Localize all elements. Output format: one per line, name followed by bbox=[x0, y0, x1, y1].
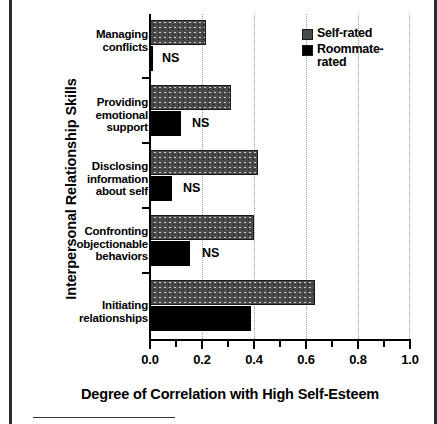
legend-label-line: rated bbox=[317, 55, 346, 69]
bar-roommate-rated-initiating-relationships bbox=[150, 306, 251, 331]
x-tick-0.6 bbox=[305, 340, 307, 349]
x-tick-0.3 bbox=[227, 340, 229, 347]
category-label-line: information bbox=[40, 173, 148, 186]
x-tick-0.0 bbox=[149, 340, 151, 349]
ns-annotation-providing-emotional-support: NS bbox=[192, 111, 209, 136]
category-label-line: Confronting bbox=[40, 225, 148, 238]
category-label-providing-emotional-support: Providing emotional support bbox=[40, 96, 148, 134]
category-label-line: Initiating bbox=[40, 299, 148, 312]
category-label-line: behaviors bbox=[40, 250, 148, 263]
x-tick-label-0.8: 0.8 bbox=[338, 352, 378, 367]
x-tick-0.4 bbox=[253, 340, 255, 349]
legend-label-self-rated: Self-rated bbox=[317, 27, 372, 41]
category-label-line: objectionable bbox=[40, 238, 148, 251]
x-tick-label-0.0: 0.0 bbox=[130, 352, 170, 367]
category-label-line: conflicts bbox=[40, 41, 148, 54]
x-axis-title: Degree of Correlation with High Self-Est… bbox=[30, 386, 430, 402]
legend-label-line: Roommate- bbox=[317, 42, 384, 56]
ns-annotation-confronting-objectionable-behaviors: NS bbox=[202, 241, 219, 266]
legend-swatch-roommate-rated-icon bbox=[302, 45, 313, 56]
x-tick-0.9 bbox=[383, 340, 385, 347]
legend-label-roommate-rated: Roommate- rated bbox=[317, 43, 384, 70]
ns-annotation-disclosing-information-about-self: NS bbox=[183, 176, 200, 201]
x-tick-0.2 bbox=[201, 340, 203, 349]
x-tick-label-0.4: 0.4 bbox=[234, 352, 274, 367]
bar-roommate-rated-providing-emotional-support bbox=[150, 111, 181, 136]
category-label-line: relationships bbox=[40, 312, 148, 325]
ns-annotation-managing-conflicts: NS bbox=[162, 46, 179, 71]
bar-roommate-rated-confronting-objectionable-behaviors bbox=[150, 241, 190, 266]
legend: Self-rated Roommate- rated bbox=[302, 27, 414, 72]
bar-self-rated-confronting-objectionable-behaviors bbox=[150, 215, 254, 240]
figure-bottom-rule bbox=[33, 417, 175, 418]
x-tick-0.5 bbox=[279, 340, 281, 347]
legend-swatch-self-rated-icon bbox=[302, 29, 313, 40]
category-label-line: emotional bbox=[40, 109, 148, 122]
legend-item-roommate-rated: Roommate- rated bbox=[302, 43, 414, 70]
category-label-confronting-objectionable-behaviors: Confronting objectionable behaviors bbox=[40, 225, 148, 263]
x-tick-1.0 bbox=[409, 340, 411, 349]
x-tick-label-0.6: 0.6 bbox=[286, 352, 326, 367]
bar-self-rated-disclosing-information-about-self bbox=[150, 150, 258, 175]
y-axis-line bbox=[149, 14, 151, 340]
bar-self-rated-managing-conflicts bbox=[150, 20, 206, 45]
category-label-line: Disclosing bbox=[40, 160, 148, 173]
x-tick-0.7 bbox=[331, 340, 333, 347]
bar-self-rated-providing-emotional-support bbox=[150, 85, 231, 110]
category-label-group: Managing conflicts Providing emotional s… bbox=[40, 14, 148, 339]
category-label-initiating-relationships: Initiating relationships bbox=[40, 299, 148, 324]
x-tick-label-0.2: 0.2 bbox=[182, 352, 222, 367]
category-label-line: about self bbox=[40, 185, 148, 198]
x-tick-0.1 bbox=[175, 340, 177, 347]
figure-left-border bbox=[9, 0, 12, 424]
category-label-line: support bbox=[40, 121, 148, 134]
bar-self-rated-initiating-relationships bbox=[150, 280, 315, 305]
bar-roommate-rated-disclosing-information-about-self bbox=[150, 176, 172, 201]
x-tick-label-1.0: 1.0 bbox=[390, 352, 430, 367]
category-label-line: Managing bbox=[40, 28, 148, 41]
legend-item-self-rated: Self-rated bbox=[302, 27, 414, 41]
category-label-disclosing-information-about-self: Disclosing information about self bbox=[40, 160, 148, 198]
category-label-managing-conflicts: Managing conflicts bbox=[40, 28, 148, 53]
x-tick-0.8 bbox=[357, 340, 359, 349]
category-label-line: Providing bbox=[40, 96, 148, 109]
figure-container: Interpersonal Relationship Skills Managi… bbox=[0, 0, 437, 424]
